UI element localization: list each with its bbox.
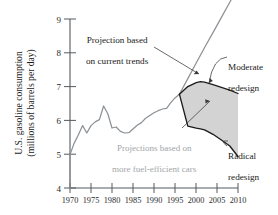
y-tick-label-9: 9 [57,15,62,25]
x-axis: 1970 1975 1980 1985 1990 1995 2000 2005 … [62,183,247,205]
x-tick-label-1975: 1975 [83,196,100,205]
annotation-moderate-redesign: Moderate redesign [228,51,263,104]
annotation-moderate-line1: Moderate [228,62,263,73]
arrowhead-moderate-redesign [209,78,213,83]
annotation-projection-current-trends: Projection based on current trends [86,24,148,77]
x-tick-label-2000: 2000 [188,196,205,205]
chart-figure: U.S. gasoline consumption (millions of b… [0,0,278,215]
y-tick-label-6: 6 [57,116,62,126]
annotation-fuel-line2: more fuel-efficient cars [112,164,196,174]
annotation-moderate-line2: redesign [228,83,263,94]
annotation-radical-redesign: Radical redesign [228,140,259,193]
annotation-trend-line2: on current trends [86,56,148,67]
x-tick-label-1980: 1980 [104,196,121,205]
x-tick-label-1990: 1990 [146,196,163,205]
annotation-fuel-efficient-projections: Projections based on more fuel-efficient… [112,133,196,185]
y-axis-label: U.S. gasoline consumption (millions of b… [13,49,37,157]
leader-line-current-trends [154,47,199,74]
projection-current-trends-line [179,0,234,94]
y-axis: 9 8 7 6 5 4 [57,15,77,194]
x-tick-label-2010: 2010 [230,196,247,205]
x-tick-label-1970: 1970 [62,196,79,205]
x-tick-label-1995: 1995 [167,196,184,205]
y-tick-label-5: 5 [57,150,62,160]
annotation-trend-line1: Projection based [86,35,148,46]
annotation-radical-line1: Radical [228,151,259,162]
y-axis-label-line2: (millions of barrels per day) [25,49,37,157]
y-tick-label-8: 8 [57,48,62,58]
annotation-radical-line2: redesign [228,172,259,183]
y-tick-label-7: 7 [57,82,62,92]
y-axis-label-line1: U.S. gasoline consumption [13,51,24,155]
annotation-fuel-line1: Projections based on [112,143,196,153]
y-tick-label-4: 4 [57,184,62,194]
leader-line-moderate-redesign [209,57,227,83]
x-tick-label-1985: 1985 [125,196,142,205]
x-tick-label-2005: 2005 [209,196,226,205]
